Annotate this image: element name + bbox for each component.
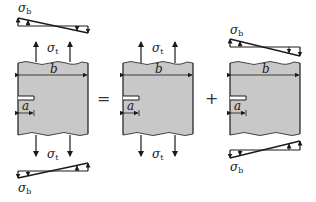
- crack-length-label: a: [127, 99, 134, 113]
- tension-stress-label-bottom: σt: [47, 147, 59, 162]
- tension-stress-label-top: σt: [47, 41, 59, 56]
- tension-stress-label-bottom: σt: [152, 147, 164, 162]
- bending-stress-label-bottom: σb: [230, 160, 243, 175]
- bending-distribution-top: [230, 39, 300, 56]
- equals-sign: =: [97, 89, 110, 108]
- bending-distribution-bottom: [230, 141, 300, 158]
- crack-length-label: a: [22, 99, 29, 113]
- width-label: b: [50, 62, 58, 76]
- width-label: b: [155, 62, 163, 76]
- width-label: b: [262, 62, 270, 76]
- panel-tension-only: σt b a σt: [123, 41, 193, 162]
- plus-sign: +: [205, 89, 218, 108]
- diagram-svg: σb σt b a σt σb: [0, 0, 316, 202]
- bending-stress-label-top: σb: [18, 1, 31, 16]
- panel-combined: σb σt b a σt σb: [18, 1, 88, 196]
- bending-distribution-bottom: [18, 163, 88, 178]
- bending-distribution-top: [18, 18, 88, 33]
- panel-bending-only: σb b a σb: [230, 23, 300, 175]
- bending-stress-label-top: σb: [230, 23, 243, 38]
- bending-stress-label-bottom: σb: [18, 181, 31, 196]
- crack-length-label: a: [234, 99, 241, 113]
- tension-stress-label-top: σt: [152, 41, 164, 56]
- superposition-diagram: σb σt b a σt σb: [0, 0, 316, 202]
